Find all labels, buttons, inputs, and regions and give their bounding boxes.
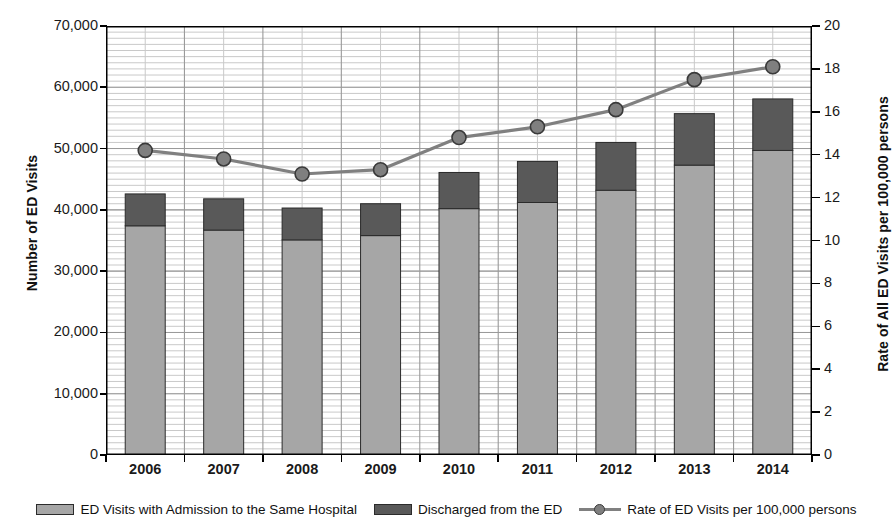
x-axis-tick-label: 2014 bbox=[734, 461, 812, 477]
y-axis-right-tick-label: 8 bbox=[824, 274, 884, 290]
bar-segment-admission bbox=[125, 226, 165, 455]
legend-item-discharged[interactable]: Discharged from the ED bbox=[374, 502, 562, 517]
legend-swatch-dark-square bbox=[374, 504, 412, 515]
x-axis-tick-mark bbox=[576, 455, 578, 462]
chart-legend: ED Visits with Admission to the Same Hos… bbox=[0, 497, 893, 521]
y-axis-left-tick-label: 50,000 bbox=[22, 140, 98, 156]
x-axis-tick-label: 2011 bbox=[498, 461, 576, 477]
y-axis-left-tick-mark bbox=[100, 209, 107, 211]
bar-segment-admission bbox=[674, 165, 714, 455]
x-axis-tick-label: 2010 bbox=[420, 461, 498, 477]
rate-line-marker bbox=[295, 167, 309, 181]
y-axis-right-tick-mark bbox=[812, 411, 820, 413]
bar-segment-discharged bbox=[204, 199, 244, 230]
legend-label-admission: ED Visits with Admission to the Same Hos… bbox=[80, 502, 357, 517]
y-axis-left-tick-mark bbox=[100, 25, 107, 27]
y-axis-left-tick-mark bbox=[100, 148, 107, 150]
rate-line-marker bbox=[766, 60, 780, 74]
x-axis-tick-label: 2009 bbox=[342, 461, 420, 477]
bar-segment-admission bbox=[439, 209, 479, 455]
y-axis-right-tick-label: 12 bbox=[824, 189, 884, 205]
bar-segment-discharged bbox=[361, 204, 401, 236]
y-axis-right-tick-mark bbox=[812, 283, 820, 285]
y-axis-right-tick-mark bbox=[812, 197, 820, 199]
bar-segment-discharged bbox=[439, 172, 479, 208]
y-axis-right-tick-mark bbox=[812, 454, 820, 456]
y-axis-right-tick-mark bbox=[812, 326, 820, 328]
x-axis-tick-mark bbox=[497, 455, 499, 462]
y-axis-right-tick-mark bbox=[812, 154, 820, 156]
bar-segment-discharged bbox=[753, 99, 793, 150]
bar-segment-discharged bbox=[517, 161, 557, 202]
rate-line-marker bbox=[609, 103, 623, 117]
bar-segment-admission bbox=[517, 203, 557, 456]
y-axis-left-tick-mark bbox=[100, 332, 107, 334]
y-axis-right-tick-mark bbox=[812, 25, 820, 27]
y-axis-right-tick-label: 2 bbox=[824, 403, 884, 419]
bar-segment-admission bbox=[361, 236, 401, 455]
legend-item-admission[interactable]: ED Visits with Admission to the Same Hos… bbox=[36, 502, 357, 517]
rate-line-marker bbox=[217, 152, 231, 166]
bar-segment-discharged bbox=[674, 114, 714, 165]
y-axis-left-tick-label: 70,000 bbox=[22, 17, 98, 33]
x-axis-tick-mark bbox=[184, 455, 186, 462]
y-axis-right-tick-mark bbox=[812, 368, 820, 370]
y-axis-right-tick-label: 10 bbox=[824, 232, 884, 248]
y-axis-right-tick-mark bbox=[812, 240, 820, 242]
y-axis-left-tick-mark bbox=[100, 86, 107, 88]
bar-segment-discharged bbox=[282, 208, 322, 240]
y-axis-left-tick-mark bbox=[100, 270, 107, 272]
x-axis-tick-label: 2006 bbox=[106, 461, 184, 477]
legend-swatch-line-marker bbox=[579, 504, 621, 515]
y-axis-left-tick-label: 20,000 bbox=[22, 323, 98, 339]
plot-area bbox=[106, 26, 812, 455]
y-axis-right-tick-label: 4 bbox=[824, 360, 884, 376]
rate-line-marker bbox=[374, 163, 388, 177]
y-axis-left-tick-label: 40,000 bbox=[22, 201, 98, 217]
y-axis-right-tick-mark bbox=[812, 111, 820, 113]
x-axis-tick-mark bbox=[262, 455, 264, 462]
x-axis-tick-label: 2008 bbox=[263, 461, 341, 477]
x-axis-tick-mark bbox=[654, 455, 656, 462]
bar-segment-admission bbox=[596, 190, 636, 455]
legend-label-discharged: Discharged from the ED bbox=[418, 502, 562, 517]
bar-segment-admission bbox=[282, 240, 322, 455]
x-axis-tick-mark bbox=[811, 455, 813, 462]
bar-segment-admission bbox=[753, 150, 793, 455]
rate-line-marker bbox=[138, 143, 152, 157]
x-axis-tick-mark bbox=[341, 455, 343, 462]
x-axis-tick-mark bbox=[733, 455, 735, 462]
y-axis-left-tick-label: 30,000 bbox=[22, 262, 98, 278]
rate-line-marker bbox=[452, 131, 466, 145]
legend-label-rate: Rate of ED Visits per 100,000 persons bbox=[627, 502, 856, 517]
y-axis-right-tick-label: 20 bbox=[824, 17, 884, 33]
y-axis-left-tick-label: 0 bbox=[22, 446, 98, 462]
bar-segment-discharged bbox=[125, 194, 165, 226]
x-axis-tick-mark bbox=[105, 455, 107, 462]
y-axis-left-tick-label: 10,000 bbox=[22, 385, 98, 401]
y-axis-right-tick-mark bbox=[812, 68, 820, 70]
y-axis-right-tick-label: 0 bbox=[824, 446, 884, 462]
y-axis-left-tick-mark bbox=[100, 393, 107, 395]
rate-line-marker bbox=[530, 120, 544, 134]
y-axis-right-tick-label: 18 bbox=[824, 60, 884, 76]
bar-segment-admission bbox=[204, 230, 244, 455]
x-axis-tick-label: 2007 bbox=[185, 461, 263, 477]
chart-container: Number of ED Visits Rate of All ED Visit… bbox=[0, 0, 893, 526]
y-axis-right-tick-label: 16 bbox=[824, 103, 884, 119]
y-axis-right-tick-label: 6 bbox=[824, 317, 884, 333]
x-axis-tick-label: 2013 bbox=[655, 461, 733, 477]
chart-svg bbox=[106, 26, 812, 455]
legend-item-rate[interactable]: Rate of ED Visits per 100,000 persons bbox=[579, 502, 856, 517]
legend-swatch-light-square bbox=[36, 504, 74, 515]
y-axis-right-tick-label: 14 bbox=[824, 146, 884, 162]
y-axis-left-tick-label: 60,000 bbox=[22, 78, 98, 94]
bar-segment-discharged bbox=[596, 142, 636, 190]
rate-line-marker bbox=[687, 73, 701, 87]
x-axis-tick-mark bbox=[419, 455, 421, 462]
x-axis-tick-label: 2012 bbox=[577, 461, 655, 477]
